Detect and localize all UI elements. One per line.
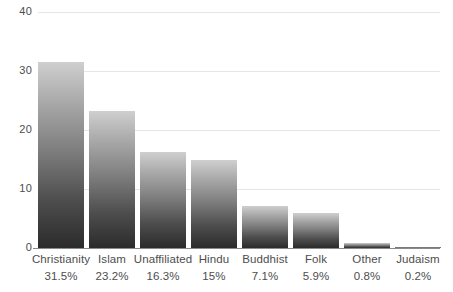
bar-other[interactable]: [344, 243, 390, 248]
bar-buddhist[interactable]: [242, 206, 288, 248]
x-label-judaism: Judaism 0.2%: [384, 252, 453, 284]
bar-group-other[interactable]: [344, 243, 390, 248]
bar-group-folk[interactable]: [293, 213, 339, 248]
bar-folk[interactable]: [293, 213, 339, 248]
bar-judaism[interactable]: [395, 247, 441, 248]
bar-christianity[interactable]: [38, 62, 84, 248]
bar-hindu[interactable]: [191, 160, 237, 249]
bars-layer: [0, 0, 453, 292]
bar-group-christianity[interactable]: [38, 62, 84, 248]
bar-group-judaism[interactable]: [395, 247, 441, 248]
x-label-name-judaism: Judaism: [384, 252, 453, 267]
bar-group-unaffiliated[interactable]: [140, 152, 186, 248]
x-label-value-judaism: 0.2%: [384, 269, 453, 284]
bar-unaffiliated[interactable]: [140, 152, 186, 248]
bar-islam[interactable]: [89, 111, 135, 248]
bar-group-hindu[interactable]: [191, 160, 237, 249]
plot-area: 40 30 20 10 0: [0, 0, 453, 292]
bar-group-islam[interactable]: [89, 111, 135, 248]
bar-chart: 40 30 20 10 0: [0, 0, 453, 292]
bar-group-buddhist[interactable]: [242, 206, 288, 248]
